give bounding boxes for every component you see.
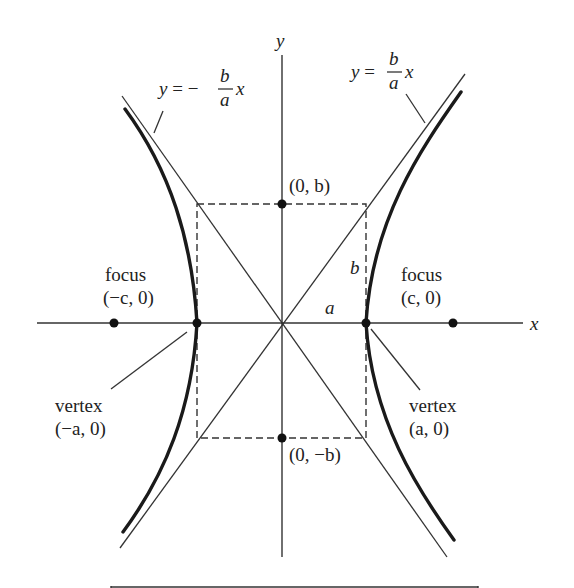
hyperbola-right-branch xyxy=(366,92,461,540)
leader-positive-asymptote xyxy=(406,94,425,123)
co-vertex-bottom-label: (0, −b) xyxy=(289,444,341,466)
vertex-left-name: vertex xyxy=(55,395,103,416)
asymptote-positive-label: y = b a x xyxy=(349,48,414,93)
semi-axis-a-label: a xyxy=(325,297,335,318)
leader-negative-asymptote xyxy=(154,111,163,133)
hyperbola-left-branch xyxy=(123,109,197,532)
diagram-canvas: x y y = − b a x y = b xyxy=(0,0,574,588)
y-axis-label: y xyxy=(274,30,285,51)
fraction-numerator: b xyxy=(389,48,399,69)
focus-left-point xyxy=(110,319,119,328)
hyperbola-diagram: x y y = − b a x y = b xyxy=(0,0,574,588)
semi-axis-b-label: b xyxy=(350,257,360,278)
asymptote-negative-label: y = − b a x xyxy=(157,65,245,110)
focus-left-coord: (−c, 0) xyxy=(103,287,154,309)
focus-left-name: focus xyxy=(105,264,146,285)
asymptote-variable: x xyxy=(404,61,414,82)
fraction-denominator: a xyxy=(220,89,230,110)
asymptote-variable: x xyxy=(235,78,245,99)
vertex-left-point xyxy=(193,319,202,328)
co-vertex-top-label: (0, b) xyxy=(289,175,330,197)
focus-right-coord: (c, 0) xyxy=(401,287,441,309)
co-vertex-bottom-point xyxy=(278,434,287,443)
focus-right-name: focus xyxy=(401,264,442,285)
leader-vertex-left xyxy=(111,332,187,389)
svg-text:y =: y = xyxy=(349,61,375,82)
vertex-right-point xyxy=(362,319,371,328)
x-axis-label: x xyxy=(529,313,539,334)
co-vertex-top-point xyxy=(278,200,287,209)
vertex-right-coord: (a, 0) xyxy=(409,418,449,440)
fraction-numerator: b xyxy=(220,65,230,86)
vertex-right-name: vertex xyxy=(409,395,457,416)
fraction-denominator: a xyxy=(389,72,399,93)
leader-vertex-right xyxy=(371,329,420,390)
svg-text:y = −: y = − xyxy=(157,78,198,99)
focus-right-point xyxy=(449,319,458,328)
vertex-left-coord: (−a, 0) xyxy=(55,418,106,440)
